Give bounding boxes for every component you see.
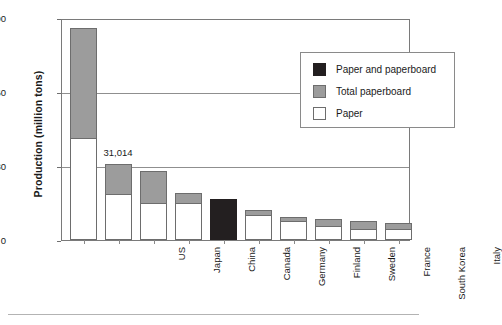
bar-italy [385,223,412,240]
bar-sweden [280,217,307,240]
bar-japan [105,164,132,240]
x-tick-mark-china [154,240,155,244]
bar-segment-combined [210,199,237,240]
x-axis-label-france: France [422,247,432,325]
bottom-divider [8,314,419,315]
x-tick-mark-canada [189,240,190,244]
y-tick-label-60: 60 [0,88,6,98]
bar-segment-paperboard [105,164,132,195]
bar-segment-paper [280,221,307,240]
legend-swatch-paper-icon [313,107,326,120]
bar-segment-paper [105,194,132,240]
x-axis-label-south-korea: South Korea [457,247,467,325]
bar-value-label-japan: 31,014 [83,148,153,158]
legend-label: Paper [336,108,363,119]
bar-finland [245,210,272,240]
bar-segment-paper [315,226,342,240]
legend-swatch-paperboard-icon [313,85,326,98]
x-tick-mark-finland [259,240,260,244]
bar-china [140,171,167,240]
y-tick-label-0: 0 [0,236,6,246]
x-axis-label-italy: Italy [492,247,502,325]
chart-legend: Paper and paperboard Total paperboard Pa… [300,52,455,128]
bar-segment-paper [245,215,272,240]
y-axis-title: Production (million tons) [32,34,44,234]
bar-south-korea [350,221,377,240]
bar-france [315,219,342,240]
legend-label: Total paperboard [336,86,411,97]
plot-area: 31,014 [61,19,410,241]
x-tick-mark-france [329,240,330,244]
x-tick-mark-us [84,240,85,244]
bar-segment-paperboard [175,193,202,204]
bar-segment-paperboard [70,28,97,139]
x-tick-mark-germany [224,240,225,244]
x-tick-mark-sweden [294,240,295,244]
y-tick-label-90: 90 [0,14,6,24]
bar-us [70,28,97,240]
legend-swatch-combined-icon [313,63,326,76]
y-tick-label-30: 30 [0,162,6,172]
bar-segment-paperboard [350,221,377,230]
bar-segment-paperboard [140,171,167,204]
bar-segment-paper [175,203,202,240]
legend-label: Paper and paperboard [336,64,436,75]
x-tick-mark-japan [119,240,120,244]
x-tick-mark-south-korea [364,240,365,244]
bar-germany [210,199,237,240]
bar-segment-paper [140,203,167,240]
bar-segment-paperboard [245,210,272,216]
x-tick-mark-italy [399,240,400,244]
bar-canada [175,193,202,240]
bar-segment-paper [350,229,377,240]
bar-segment-paper [385,229,412,240]
y-tick-mark-0 [57,241,61,242]
bar-segment-paperboard [315,219,342,227]
bar-segment-paperboard [385,223,412,230]
bar-segment-paperboard [280,217,307,222]
